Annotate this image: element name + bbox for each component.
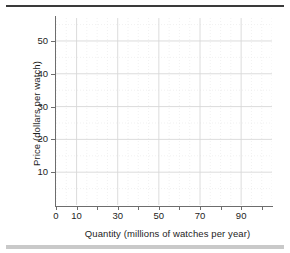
minor-grid-group xyxy=(56,18,272,205)
x-tick-mark xyxy=(138,206,139,210)
y-tick-mark xyxy=(51,41,56,42)
y-tick-mark xyxy=(51,139,56,140)
chart-figure: Price (dollars per watch) 01030507090 10… xyxy=(0,0,290,253)
x-tick-label: 90 xyxy=(229,210,253,221)
x-tick-mark xyxy=(221,206,222,210)
x-tick-mark xyxy=(97,206,98,210)
x-tick-mark xyxy=(179,206,180,210)
bottom-divider-bar xyxy=(6,245,284,249)
y-tick-label: 50 xyxy=(22,35,48,46)
y-axis-line xyxy=(55,16,56,207)
y-tick-label: 30 xyxy=(22,101,48,112)
plot-area xyxy=(56,18,272,205)
y-tick-label: 40 xyxy=(22,68,48,79)
y-tick-mark xyxy=(51,74,56,75)
y-tick-mark xyxy=(51,172,56,173)
x-tick-label: 50 xyxy=(147,210,171,221)
y-tick-label: 10 xyxy=(22,166,48,177)
x-tick-label: 30 xyxy=(106,210,130,221)
x-axis-title: Quantity (millions of watches per year) xyxy=(55,228,280,239)
y-tick-mark xyxy=(51,107,56,108)
x-tick-label: 10 xyxy=(65,210,89,221)
x-tick-label: 70 xyxy=(188,210,212,221)
grid-lines xyxy=(56,18,272,205)
x-tick-mark xyxy=(262,206,263,210)
y-tick-label: 20 xyxy=(22,133,48,144)
major-grid-group xyxy=(56,18,272,205)
